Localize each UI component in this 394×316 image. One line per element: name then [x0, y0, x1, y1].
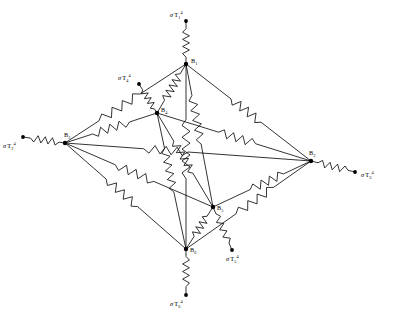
source-label-t5: σT54 — [226, 254, 240, 263]
source-node-t3 — [353, 170, 357, 174]
space-resistor-r15 — [186, 64, 213, 207]
source-node-t4 — [137, 82, 141, 86]
surface-resistor-r-t3-b3 — [311, 160, 355, 172]
node-label-b2: B2 — [64, 131, 70, 140]
surface-node-b6 — [184, 247, 188, 251]
surface-node-b5 — [211, 205, 215, 209]
surface-node-b1 — [184, 62, 188, 66]
source-subscript-t1: 1 — [178, 15, 180, 20]
node-subscript-b3: 3 — [313, 153, 315, 158]
node-label-b6: B6 — [190, 246, 197, 255]
surface-resistor-r-t2-b2 — [23, 136, 65, 145]
source-superscript-t3: 4 — [372, 170, 375, 175]
source-superscript-t1: 4 — [181, 10, 184, 15]
node-subscript-b4: 4 — [165, 110, 168, 115]
space-resistor-r45 — [157, 113, 213, 207]
space-resistor-r35 — [213, 161, 311, 207]
surface-resistor-r-t6-b6 — [183, 249, 190, 295]
node-subscript-b6: 6 — [194, 250, 197, 255]
source-node-t1 — [184, 19, 188, 23]
surface-resistor-r-t5-b5 — [213, 207, 232, 250]
space-resistor-r26 — [65, 143, 186, 249]
surface-node-b2 — [63, 141, 67, 145]
node-label-b5: B5 — [217, 204, 223, 213]
surface-node-b3 — [309, 159, 313, 163]
source-superscript-t4: 4 — [129, 73, 132, 78]
edges-layer — [23, 21, 355, 295]
source-superscript-t5: 4 — [237, 254, 240, 259]
source-subscript-t6: 6 — [178, 304, 181, 309]
node-label-b3: B3 — [309, 149, 315, 158]
source-label-t6: σT64 — [170, 299, 184, 308]
source-label-t4: σT44 — [118, 73, 132, 82]
node-label-b1: B1 — [191, 57, 197, 66]
source-label-t2: σT24 — [3, 141, 17, 150]
labels-layer: B1B2B3B4B5B6σT14σT24σT34σT44σT54σT64 — [3, 10, 375, 308]
source-node-t5 — [230, 248, 234, 252]
source-subscript-t2: 2 — [11, 146, 13, 151]
surface-resistor-r-t1-b1 — [183, 21, 190, 64]
surface-node-b4 — [155, 111, 159, 115]
node-label-b4: B4 — [161, 106, 168, 115]
node-subscript-b2: 2 — [68, 135, 70, 140]
source-superscript-t2: 4 — [14, 141, 17, 146]
source-subscript-t3: 3 — [369, 175, 371, 180]
source-subscript-t5: 5 — [234, 259, 236, 264]
source-node-t6 — [184, 293, 188, 297]
node-subscript-b5: 5 — [221, 208, 223, 213]
source-node-t2 — [21, 135, 25, 139]
space-resistor-r13 — [186, 64, 311, 161]
space-resistor-r34 — [157, 113, 311, 161]
space-resistor-r46 — [157, 113, 186, 249]
space-resistor-r16 — [182, 64, 190, 249]
source-superscript-t6: 4 — [181, 299, 184, 304]
source-subscript-t4: 4 — [126, 78, 129, 83]
source-label-t1: σT14 — [170, 10, 184, 19]
node-subscript-b1: 1 — [195, 61, 197, 66]
source-label-t3: σT34 — [361, 170, 375, 179]
radiation-network-diagram: B1B2B3B4B5B6σT14σT24σT34σT44σT54σT64 — [0, 0, 394, 316]
network-svg: B1B2B3B4B5B6σT14σT24σT34σT44σT54σT64 — [0, 0, 394, 316]
space-resistor-r56 — [186, 207, 213, 249]
space-resistor-r36 — [186, 161, 311, 249]
